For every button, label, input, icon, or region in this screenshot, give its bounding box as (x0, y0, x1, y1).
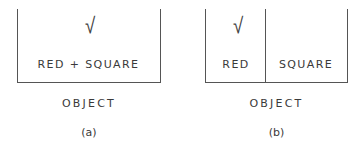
object-caption-a: OBJECT (17, 98, 161, 110)
sub-label-b: (b) (205, 127, 348, 139)
cell-label-red-plus-square: RED + SQUARE (18, 59, 159, 71)
checkmark-icon: √ (233, 15, 243, 37)
sub-label-a: (a) (17, 127, 161, 139)
panel-a: √ RED + SQUARE OBJECT (a) (0, 0, 182, 145)
object-box-b: √ RED SQUARE (205, 9, 348, 83)
panel-b: √ RED SQUARE OBJECT (b) (182, 0, 364, 145)
checkmark-icon: √ (85, 15, 95, 37)
cell-divider (265, 9, 266, 82)
object-caption-b: OBJECT (205, 98, 348, 110)
cell-label-square: SQUARE (266, 59, 346, 71)
cell-label-red: RED (206, 59, 266, 71)
object-box-a: √ RED + SQUARE (17, 9, 161, 83)
